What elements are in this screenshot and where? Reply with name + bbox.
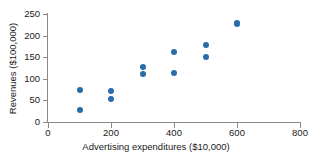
x-axis-title: Advertising expenditures ($10,000)	[0, 141, 312, 152]
plot-area	[48, 14, 300, 122]
x-tick-label-200: 200	[94, 128, 128, 138]
x-tick-label-800: 800	[283, 128, 312, 138]
data-point	[203, 42, 209, 48]
data-point	[108, 88, 114, 94]
x-tick-label-400: 400	[157, 128, 191, 138]
data-point	[171, 70, 177, 76]
data-point	[77, 107, 83, 113]
data-point	[108, 96, 114, 102]
data-point	[171, 49, 177, 55]
data-point	[203, 54, 209, 60]
x-tick-label-600: 600	[220, 128, 254, 138]
scatter-plot-figure: 050100150200250 0200400600800 Advertisin…	[0, 0, 312, 157]
x-tick-label-0: 0	[31, 128, 65, 138]
y-axis-title: Revenues ($100,000)	[7, 9, 18, 129]
data-point	[140, 64, 146, 70]
